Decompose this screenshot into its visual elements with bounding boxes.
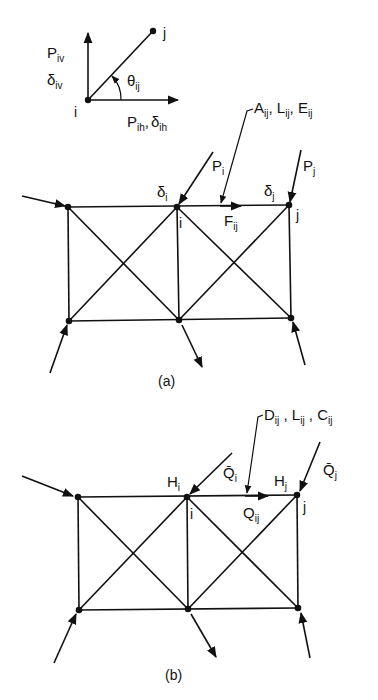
b-head-j-label: Hj <box>274 472 287 492</box>
a-disp-j-label: δj <box>264 182 275 202</box>
b-member-flow-label: Qij <box>243 504 259 524</box>
a-node-i-label: i <box>179 215 182 231</box>
a-node-j <box>286 202 293 209</box>
inflow-arrow <box>22 476 73 496</box>
node-j-dot <box>150 28 156 34</box>
load-arrow <box>50 325 67 373</box>
figure-a-caption: (a) <box>158 373 175 389</box>
a-node-j-label: j <box>295 207 299 223</box>
a-disp-i-label: δi <box>157 183 168 203</box>
a-node-i <box>174 204 181 211</box>
load-arrow <box>22 196 65 206</box>
outflow-arrow <box>191 614 216 657</box>
a-member-force-label: Fij <box>224 212 238 232</box>
vertical-force-label: Piv <box>47 44 64 64</box>
figure-b-caption: (b) <box>165 667 182 683</box>
inset-node-j-label: j <box>162 25 166 41</box>
inflow-arrow <box>54 614 76 663</box>
b-inflow-i-label: Q̄i <box>223 464 237 484</box>
member-props-leader <box>221 109 253 203</box>
b-inflow-j-label: Q̄j <box>323 461 337 481</box>
a-load-i-label: Pi <box>212 157 224 177</box>
horizontal-force-disp-label: Pih,δih <box>127 113 167 133</box>
vertical-disp-label: δiv <box>47 71 63 91</box>
load-arrow-pj <box>290 150 301 202</box>
figure-a-truss: Aij, Lij, Eij Pi Pj δi δj Fij i j (a) <box>22 99 315 389</box>
angle-label: θij <box>127 72 140 92</box>
inflow-arrow-qj <box>300 442 320 491</box>
b-node-j <box>294 492 301 499</box>
figure-b-network: Dij , Lij , Cij Q̄i Q̄j Hi Hj Qij i j (b… <box>22 406 337 683</box>
inset-coordinate-diagram: Piv δiv θij i j Pih,δih <box>47 25 178 133</box>
a-load-j-label: Pj <box>303 157 315 177</box>
angle-arc-arrow <box>112 76 121 100</box>
member-ij-line <box>88 31 153 100</box>
b-node-i <box>184 494 191 501</box>
load-arrow-pi <box>179 152 213 204</box>
node-i-dot <box>85 97 91 103</box>
b-node-i-label: i <box>190 506 193 522</box>
inset-node-i-label: i <box>74 104 77 120</box>
load-arrow <box>293 322 305 365</box>
b-node-j-label: j <box>302 499 306 515</box>
a-member-props-label: Aij, Lij, Eij <box>254 99 312 119</box>
member-props-leader <box>247 415 263 493</box>
b-member-props-label: Dij , Lij , Cij <box>264 406 332 426</box>
load-arrow <box>182 325 202 367</box>
truss-network-diagram: Piv δiv θij i j Pih,δih <box>0 0 378 700</box>
b-head-i-label: Hi <box>167 473 180 493</box>
inflow-arrow <box>301 613 310 658</box>
